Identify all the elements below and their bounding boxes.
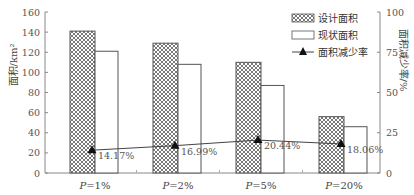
y-tick-label: 60 [28, 107, 40, 118]
legend-swatch-design [292, 14, 314, 22]
y-tick-label: 40 [28, 127, 40, 138]
x-tick-label: P=2% [162, 180, 194, 191]
legend-triangle-icon [299, 47, 307, 55]
legend-label-design: 设计面积 [318, 12, 358, 24]
data-label: 20.44% [264, 140, 300, 151]
y-tick-label: 140 [22, 27, 40, 38]
y2-axis-title: 面积减少率/% [398, 29, 410, 92]
y2-tick-label: 50 [386, 87, 398, 98]
legend-swatch-current [292, 31, 314, 39]
bar-current-area [178, 64, 201, 173]
x-tick-label: P=20% [324, 180, 362, 191]
bar-current-area [261, 85, 284, 173]
y-axis-title: 面积/km² [8, 44, 19, 87]
y-tick-label: 120 [22, 47, 40, 58]
y-tick-label: 100 [22, 67, 40, 78]
chart: 0204060801001201401600255075100面积/km²面积减… [0, 0, 414, 195]
x-tick-label: P=5% [245, 180, 277, 191]
y2-tick-label: 75 [386, 47, 398, 58]
bar-design-area [236, 62, 261, 173]
x-tick-label: P=1% [79, 180, 111, 191]
data-label: 18.06% [347, 144, 383, 155]
y2-tick-label: 100 [386, 7, 404, 18]
data-label: 14.17% [98, 150, 134, 161]
legend-label-rate: 面积减少率 [318, 46, 368, 58]
y-tick-label: 0 [34, 168, 40, 179]
legend-label-current: 现状面积 [318, 29, 358, 41]
y-tick-label: 160 [22, 7, 40, 18]
y2-tick-label: 0 [386, 168, 392, 179]
y-tick-label: 20 [28, 147, 40, 158]
y-tick-label: 80 [28, 87, 40, 98]
data-label: 16.99% [181, 146, 217, 157]
y2-tick-label: 25 [386, 127, 398, 138]
bar-design-area [153, 43, 178, 173]
